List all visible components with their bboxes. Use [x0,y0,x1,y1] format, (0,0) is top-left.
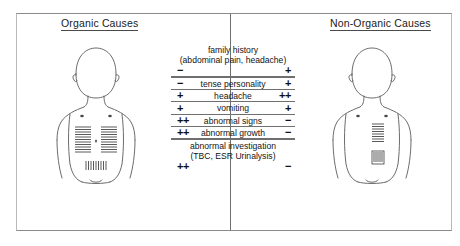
child-figure-non-organic [322,44,422,188]
row-label-main: abnormal investigation [190,141,276,151]
row-label: vomiting [171,102,295,113]
table-row: abnormal investigation (TBC, ESR Urinaly… [171,140,295,172]
table-row: tense personality − + [171,78,295,89]
table-row: abnormal signs ++ − [171,115,295,126]
row-label-main: tense personality [201,79,266,89]
comparison-table: family history (abdominal pain, headache… [171,44,295,172]
row-label: headache [171,90,295,101]
row-label-main: family history [208,45,258,55]
table-row: abnormal growth ++ − [171,127,295,138]
table-row: family history (abdominal pain, headache… [171,44,295,76]
row-label: family history (abdominal pain, headache… [171,44,295,65]
row-label: abnormal investigation (TBC, ESR Urinaly… [171,140,295,161]
table-row: vomiting + + [171,102,295,113]
sign-organic: − [177,65,183,76]
row-label: abnormal growth [171,127,295,138]
row-label-sub: (TBC, ESR Urinalysis) [171,151,295,161]
sign-non-organic: − [285,161,291,172]
row-label-sub: (abdominal pain, headache) [171,55,295,65]
table-row: headache + ++ [171,90,295,101]
row-signs: − + [171,65,295,76]
sign-non-organic: + [285,65,291,76]
row-label: tense personality [171,78,295,89]
child-figure-organic [46,44,146,188]
row-signs: ++ − [171,161,295,172]
row-label-main: abnormal signs [204,116,262,126]
row-label: abnormal signs [171,115,295,126]
heading-organic-causes: Organic Causes [61,17,138,31]
heading-non-organic-causes: Non-Organic Causes [330,17,431,31]
sign-organic: ++ [177,161,189,172]
row-label-main: vomiting [217,103,249,113]
row-label-main: headache [214,91,252,101]
row-label-main: abnormal growth [201,128,265,138]
